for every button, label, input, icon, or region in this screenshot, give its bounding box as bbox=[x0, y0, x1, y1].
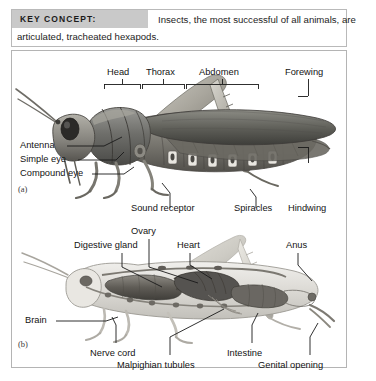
label-brain: Brain bbox=[25, 315, 47, 326]
label-abdomen: Abdomen bbox=[199, 67, 239, 78]
key-concept-text-line2: articulated, tracheated hexapods. bbox=[17, 30, 337, 43]
panel-b-tag: (b) bbox=[18, 339, 28, 349]
key-concept-badge-label: KEY CONCEPT: bbox=[20, 14, 96, 24]
key-concept-text-line1: Insects, the most successful of all anim… bbox=[158, 13, 348, 26]
figure-frame: Head Thorax Abdomen Forewing Antenna Sim… bbox=[11, 50, 347, 368]
key-concept-box: KEY CONCEPT: Insects, the most successfu… bbox=[11, 9, 347, 47]
label-head: Head bbox=[107, 67, 129, 78]
label-simple-eye: Simple eye bbox=[20, 154, 66, 165]
label-anus: Anus bbox=[286, 240, 307, 251]
label-ovary: Ovary bbox=[131, 226, 156, 237]
figure-page: KEY CONCEPT: Insects, the most successfu… bbox=[0, 0, 376, 381]
label-hindwing: Hindwing bbox=[288, 203, 326, 214]
label-spiracles: Spiracles bbox=[234, 203, 272, 214]
label-intestine: Intestine bbox=[227, 348, 262, 359]
label-antenna: Antenna bbox=[20, 140, 55, 151]
label-genital-opening: Genital opening bbox=[258, 360, 323, 371]
label-malpighian-tubules: Malpighian tubules bbox=[117, 360, 195, 371]
label-forewing: Forewing bbox=[285, 67, 323, 78]
key-concept-badge: KEY CONCEPT: bbox=[12, 10, 148, 28]
label-heart: Heart bbox=[177, 240, 200, 251]
label-compound-eye: Compound eye bbox=[20, 168, 83, 179]
label-nerve-cord: Nerve cord bbox=[90, 348, 135, 359]
label-thorax: Thorax bbox=[146, 67, 175, 78]
label-sound-receptor: Sound receptor bbox=[131, 203, 195, 214]
panel-a-tag: (a) bbox=[18, 184, 27, 194]
label-digestive-gland: Digestive gland bbox=[74, 240, 138, 251]
